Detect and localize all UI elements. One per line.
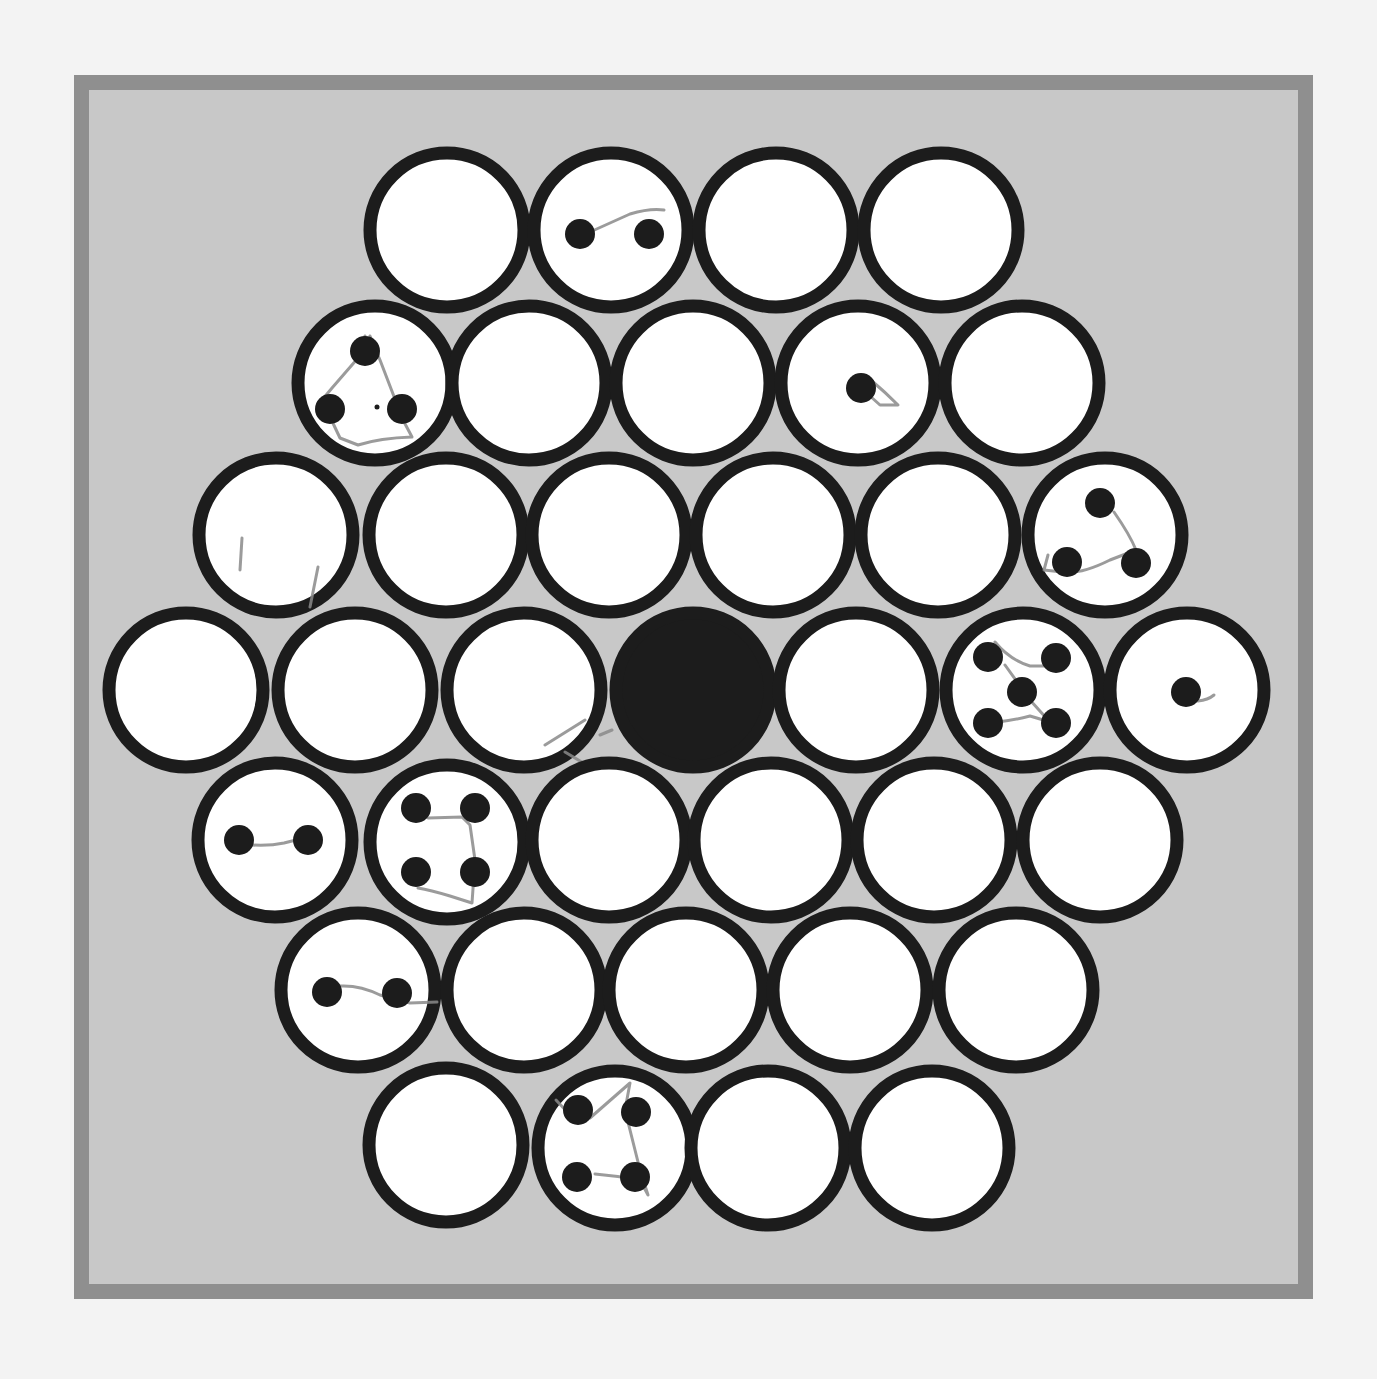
- pip-dot: [460, 793, 490, 823]
- board-cell-r1c4[interactable]: [864, 153, 1018, 307]
- cell-circle[interactable]: [532, 458, 686, 612]
- pip-dot: [312, 977, 342, 1007]
- cell-circle[interactable]: [447, 913, 601, 1067]
- board-cell-r2c2[interactable]: [452, 306, 606, 460]
- pip-dot: [315, 394, 345, 424]
- cell-circle[interactable]: [447, 613, 601, 767]
- pip-dot: [1171, 677, 1201, 707]
- board-cell-r1c3[interactable]: [699, 153, 853, 307]
- cell-circle[interactable]: [779, 613, 933, 767]
- board-cell-r6c1[interactable]: [281, 913, 437, 1067]
- pip-dot: [973, 708, 1003, 738]
- cell-circle[interactable]: [691, 1071, 845, 1225]
- pip-dot: [1121, 548, 1151, 578]
- cells-layer: [109, 153, 1264, 1225]
- pip-dot: [387, 394, 417, 424]
- board-cell-r4c5[interactable]: [779, 613, 933, 767]
- board-cell-r2c1[interactable]: [298, 306, 452, 460]
- pip-dot: [565, 219, 595, 249]
- board-cell-r5c4[interactable]: [694, 763, 848, 917]
- pip-dot: [382, 978, 412, 1008]
- speck-mark: [375, 405, 380, 410]
- cell-circle[interactable]: [452, 306, 606, 460]
- pip-dot: [634, 219, 664, 249]
- board-cell-r1c2[interactable]: [534, 153, 688, 307]
- board-cell-r4c7[interactable]: [1110, 613, 1264, 767]
- board-cell-r7c1[interactable]: [369, 1068, 523, 1222]
- cell-circle[interactable]: [298, 306, 452, 460]
- cell-circle[interactable]: [1028, 458, 1182, 612]
- pip-dot: [401, 793, 431, 823]
- pip-dot: [460, 857, 490, 887]
- cell-circle[interactable]: [609, 913, 763, 1067]
- pip-dot: [1041, 708, 1071, 738]
- board-cell-r3c1[interactable]: [199, 458, 353, 612]
- cell-circle[interactable]: [855, 1071, 1009, 1225]
- board-cell-r4c2[interactable]: [278, 613, 432, 767]
- center-filled-cell[interactable]: [616, 613, 770, 767]
- cell-circle[interactable]: [694, 763, 848, 917]
- board-cell-r5c5[interactable]: [857, 763, 1011, 917]
- cell-circle[interactable]: [109, 613, 263, 767]
- pip-dot: [846, 373, 876, 403]
- board-cell-r2c3[interactable]: [616, 306, 770, 460]
- cell-circle[interactable]: [532, 763, 686, 917]
- hex-board: [0, 0, 1377, 1379]
- pip-dot: [1041, 643, 1071, 673]
- cell-circle[interactable]: [281, 913, 435, 1067]
- cell-circle[interactable]: [370, 153, 524, 307]
- board-cell-r6c2[interactable]: [447, 913, 601, 1067]
- cell-circle[interactable]: [369, 1068, 523, 1222]
- pip-dot: [1085, 488, 1115, 518]
- board-cell-r6c4[interactable]: [773, 913, 927, 1067]
- cell-circle[interactable]: [939, 913, 1093, 1067]
- pip-dot: [621, 1097, 651, 1127]
- cell-circle[interactable]: [278, 613, 432, 767]
- cell-circle[interactable]: [699, 153, 853, 307]
- board-cell-r3c5[interactable]: [861, 458, 1015, 612]
- pip-dot: [1052, 547, 1082, 577]
- board-cell-r4c4[interactable]: [616, 613, 770, 767]
- pip-dot: [563, 1095, 593, 1125]
- board-cell-r5c6[interactable]: [1023, 763, 1177, 917]
- board-cell-r4c6[interactable]: [946, 613, 1100, 767]
- cell-circle[interactable]: [773, 913, 927, 1067]
- cell-circle[interactable]: [616, 306, 770, 460]
- cell-circle[interactable]: [861, 458, 1015, 612]
- cell-circle[interactable]: [369, 458, 523, 612]
- pip-dot: [973, 642, 1003, 672]
- board-cell-r3c2[interactable]: [369, 458, 523, 612]
- board-cell-r3c6[interactable]: [1028, 458, 1182, 612]
- cell-circle[interactable]: [1023, 763, 1177, 917]
- board-cell-r7c4[interactable]: [855, 1071, 1009, 1225]
- board-cell-r5c3[interactable]: [532, 763, 686, 917]
- board-cell-r1c1[interactable]: [370, 153, 524, 307]
- pip-dot: [1007, 677, 1037, 707]
- board-cell-r2c4[interactable]: [781, 306, 935, 460]
- pip-dot: [401, 857, 431, 887]
- board-cell-r5c2[interactable]: [370, 765, 524, 919]
- board-cell-r3c4[interactable]: [696, 458, 850, 612]
- pip-dot: [562, 1162, 592, 1192]
- pip-dot: [620, 1162, 650, 1192]
- pip-dot: [350, 336, 380, 366]
- cell-circle[interactable]: [538, 1071, 692, 1225]
- cell-circle[interactable]: [857, 763, 1011, 917]
- board-cell-r4c3[interactable]: [447, 613, 612, 775]
- board-cell-r2c5[interactable]: [945, 306, 1099, 460]
- cell-circle[interactable]: [945, 306, 1099, 460]
- board-cell-r5c1[interactable]: [198, 763, 352, 917]
- board-cell-r4c1[interactable]: [109, 613, 263, 767]
- cell-circle[interactable]: [534, 153, 688, 307]
- board-cell-r3c3[interactable]: [532, 458, 686, 612]
- cell-circle[interactable]: [696, 458, 850, 612]
- cell-circle[interactable]: [199, 458, 353, 612]
- board-cell-r6c3[interactable]: [609, 913, 763, 1067]
- pip-dot: [293, 825, 323, 855]
- board-cell-r6c5[interactable]: [939, 913, 1093, 1067]
- board-cell-r7c3[interactable]: [691, 1071, 845, 1225]
- cell-circle[interactable]: [864, 153, 1018, 307]
- cell-circle[interactable]: [198, 763, 352, 917]
- board-cell-r7c2[interactable]: [538, 1071, 692, 1225]
- pip-dot: [224, 825, 254, 855]
